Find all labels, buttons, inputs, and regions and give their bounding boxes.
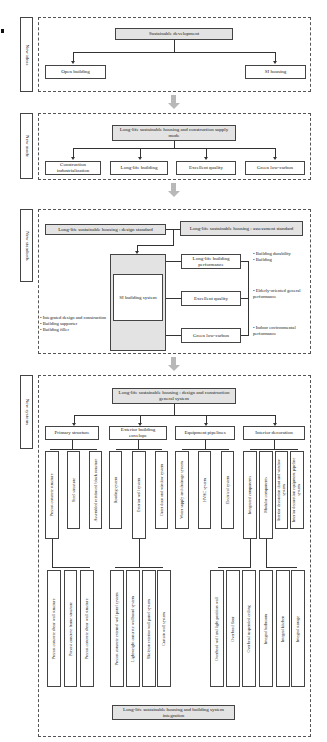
node-green-low-carbon: Green low-carbon — [245, 161, 305, 175]
connector — [250, 539, 251, 567]
node-si-housing: SI housing — [245, 65, 306, 79]
arrow-head-icon — [204, 157, 208, 160]
connector — [166, 335, 181, 336]
connector — [138, 440, 139, 449]
subitem-integral-kitchen: Integral kitchen — [276, 570, 290, 687]
node-excellent-quality: Excellent quality — [176, 161, 236, 175]
left-bullet-list: • Integrated design and construction • B… — [40, 315, 108, 333]
figure-panel-mark — [1, 29, 4, 33]
connector — [166, 261, 181, 262]
section-label-standards: New standards — [20, 209, 33, 282]
category-interior-decoration: Interior decoration — [243, 426, 305, 440]
item-integrated-components: Integrated components — [243, 451, 257, 539]
connector — [266, 567, 297, 568]
node-open-building: Open building — [45, 65, 106, 79]
connector — [166, 298, 181, 299]
connector — [218, 567, 251, 568]
connector — [115, 567, 163, 568]
connector — [241, 298, 248, 299]
node-assessment-standard: Long-life sustainable housing : assessme… — [180, 221, 303, 236]
connector — [241, 261, 248, 262]
connector — [241, 335, 248, 336]
connector — [139, 539, 140, 567]
section-label-systems: New systems — [20, 375, 33, 449]
section-label-text: New ideas — [24, 44, 29, 65]
node-system-integration: Long-life sustainable housing and buildi… — [112, 705, 235, 720]
item-hvac-system: HVAC system — [198, 451, 211, 529]
node-general-system: Long-life sustainable housing : design a… — [112, 388, 236, 404]
subitem-curtain-wall: Curtain wall system — [157, 570, 171, 687]
connector — [52, 567, 90, 568]
subitem-precast-shear-wall-2: Precast concrete shear wall structure — [80, 570, 94, 687]
item-electrical-system: Electrical system — [221, 451, 234, 529]
subitem-precast-shear-wall: Precast concrete shear wall structure — [47, 570, 61, 687]
arrow-head-icon — [71, 157, 75, 160]
right-bullet-list-elderly: • Elderly-oriented general performance — [253, 288, 305, 300]
node-construction-industrialization: Construction industrialization — [45, 161, 101, 175]
subitem-precast-frame: Precast concrete frame structure — [64, 570, 77, 687]
node-si-building-system: SI building system — [113, 274, 163, 321]
node-long-life-building-performance: Long-life building performance — [181, 254, 241, 269]
right-bullet-list-indoor: • Indoor environmental performance — [253, 325, 305, 337]
connector — [74, 415, 275, 416]
node-design-standard: Long-life sustainable housing : design s… — [45, 224, 166, 235]
arrow-head-icon — [273, 157, 277, 160]
category-primary-structure: Primary structure — [45, 426, 99, 440]
item-water-supply-drainage: Water supply and drainage system — [175, 451, 189, 529]
connector — [73, 148, 275, 149]
connector — [50, 449, 97, 450]
flow-arrow-head-icon — [168, 191, 180, 197]
item-outer-door-window: Outer door and window system — [155, 451, 168, 529]
arrow-head-icon — [138, 157, 142, 160]
subitem-overhead-wall-partition: Overhead wall and light partition wall — [210, 570, 224, 687]
node-excellent-quality-std: Excellent quality — [181, 291, 241, 306]
connector — [173, 229, 174, 245]
connector — [182, 449, 229, 450]
connector — [72, 440, 73, 449]
connector — [248, 261, 249, 336]
bullet-item: • Elderly-oriented general performance — [253, 288, 305, 300]
item-precast-concrete-structure: Precast concrete structure — [45, 451, 59, 539]
section-label-text: New systems — [24, 399, 29, 426]
item-interior-equipment-pipeline: Interior decoration equipment pipeline s… — [290, 451, 304, 529]
item-steel-structure: Steel structure — [67, 451, 80, 529]
flow-arrow-head-icon — [168, 103, 180, 109]
right-bullet-list-durability: • Building durability • Building — [253, 251, 305, 263]
connector — [174, 141, 175, 148]
node-sustainable-development: Sustainable development — [115, 28, 233, 40]
item-roofing-system: Roofing system — [109, 451, 122, 529]
item-interior-door-window: Interior decoration door and window syst… — [275, 451, 288, 529]
subitem-overhead-ceiling: Overhead suspended ceiling — [242, 570, 256, 687]
connector — [266, 539, 267, 567]
connector — [274, 440, 275, 449]
node-long-life-building: Long-life building — [110, 161, 168, 175]
item-modular-components: Modular components — [259, 451, 273, 539]
category-equipment-pipelines: Equipment pipelines — [175, 426, 235, 440]
node-supply-mode: Long-life sustainable housing and constr… — [112, 125, 236, 141]
subitem-lightweight-wallboard: Lightweight concrete wallboard system — [126, 570, 140, 687]
arrow-head-icon — [273, 61, 277, 64]
connector — [116, 449, 162, 450]
connector — [174, 404, 175, 415]
item-assembled-block-structure: Assembled reinforced block structure — [89, 451, 102, 529]
category-exterior-envelope: Exterior building envelope — [109, 426, 167, 440]
section-label-text: New mode — [24, 135, 29, 157]
bullet-item: • Building — [253, 257, 305, 263]
item-exterior-wall-system: Exterior wall system — [132, 451, 146, 539]
subitem-integral-bathroom: Integral bathroom — [259, 570, 273, 687]
flow-arrow-head-icon — [168, 365, 180, 371]
node-green-low-carbon-std: Green low-carbon — [181, 328, 241, 343]
connector — [73, 52, 275, 53]
arrow-head-icon — [71, 61, 75, 64]
connector — [52, 539, 53, 567]
bullet-item: • Indoor environmental performance — [253, 325, 305, 337]
section-label-mode: New mode — [20, 113, 33, 179]
connector — [137, 245, 174, 246]
subitem-integral-storage: Integral storage — [291, 570, 305, 687]
section-label-text: New standards — [24, 231, 29, 261]
connector — [250, 449, 298, 450]
subitem-overhead-floor: Overhead floor — [226, 570, 240, 687]
subitem-precast-external-panel: Precast concrete external wall panel sys… — [110, 570, 124, 687]
connector — [205, 440, 206, 449]
section-label-ideas: New ideas — [20, 17, 33, 92]
